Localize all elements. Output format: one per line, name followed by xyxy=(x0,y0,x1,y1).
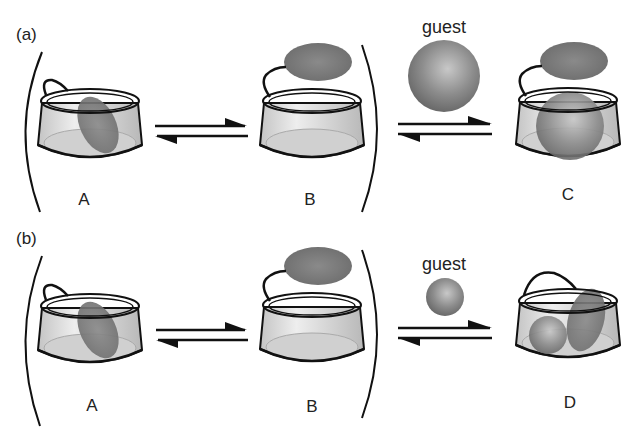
state-a-label: A xyxy=(86,396,98,415)
lid-icon xyxy=(284,247,352,285)
equilibrium-arrows xyxy=(398,116,492,142)
state-a-figure xyxy=(38,285,142,365)
right-bracket xyxy=(362,250,377,418)
state-a-label: A xyxy=(78,190,90,209)
panel-a: (a) A B guest xyxy=(16,17,620,212)
state-c-figure xyxy=(516,42,620,160)
right-bracket xyxy=(362,45,377,212)
guest-label: guest xyxy=(422,254,466,274)
state-b-label: B xyxy=(304,190,315,209)
panel-b-label: (b) xyxy=(16,229,37,248)
state-b-figure xyxy=(260,43,364,157)
lid-icon xyxy=(540,42,608,80)
equilibrium-diagram: (a) A B guest xyxy=(0,0,643,442)
guest-large-icon xyxy=(536,92,604,160)
state-b-label: B xyxy=(306,397,317,416)
state-c-label: C xyxy=(562,185,574,204)
equilibrium-arrows xyxy=(155,118,248,144)
state-a-figure xyxy=(38,80,142,160)
state-d-label: D xyxy=(564,393,576,412)
guest-small-icon xyxy=(426,278,464,316)
panel-a-label: (a) xyxy=(16,25,37,44)
lid-icon xyxy=(284,43,352,81)
equilibrium-arrows xyxy=(398,320,492,346)
guest-large-icon xyxy=(408,40,480,112)
equilibrium-arrows xyxy=(156,322,248,348)
guest-label: guest xyxy=(422,17,466,37)
state-b-figure xyxy=(260,247,364,361)
guest-small-icon xyxy=(529,316,567,354)
state-d-figure xyxy=(516,272,620,357)
panel-b: (b) A B guest xyxy=(16,229,620,426)
